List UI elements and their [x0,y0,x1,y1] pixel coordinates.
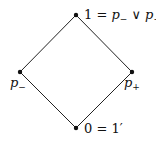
label-top-plus-sub: + [153,14,156,24]
node-top [74,13,78,17]
label-right: p+ [124,76,140,92]
label-right-sub: + [132,82,140,92]
label-left-sub: − [18,82,26,92]
edge-left-bottom [20,72,76,128]
label-bottom-one-prime: 1′ [111,121,122,136]
node-right [130,70,134,74]
node-left [18,70,22,74]
label-top: 1 = p− ∨ p+ [84,8,156,24]
label-bottom-equals: = [92,121,111,136]
edge-top-left [20,15,76,72]
label-top-join-op: ∨ [127,7,145,22]
node-bottom [74,126,78,130]
label-left: p− [10,76,26,92]
label-top-equals: = [92,7,111,22]
label-bottom: 0 = 1′ [84,122,123,135]
label-top-p: p [111,7,119,22]
